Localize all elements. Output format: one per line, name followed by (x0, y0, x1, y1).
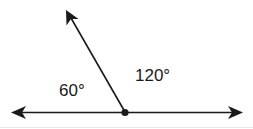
upper-arrowhead-icon (66, 10, 79, 26)
angle-label-60: 60° (59, 82, 85, 99)
angle-diagram (0, 0, 253, 129)
angle-label-120: 120° (135, 67, 170, 84)
vertex-dot (121, 109, 128, 116)
bottom-divider (0, 127, 253, 128)
